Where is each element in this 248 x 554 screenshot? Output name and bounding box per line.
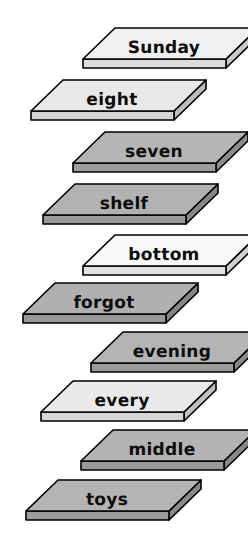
shelf-top-face <box>26 480 201 511</box>
shelf-top-face <box>83 235 248 266</box>
shelf-front-face <box>83 266 226 275</box>
shelf-plank[interactable]: eight <box>29 78 189 130</box>
shelf-shape-icon <box>89 330 248 382</box>
shelf-plank[interactable]: every <box>39 379 199 431</box>
shelf-shape-icon <box>21 281 181 333</box>
shelf-plank[interactable]: forgot <box>21 281 181 333</box>
shelf-front-face <box>41 412 184 421</box>
shelf-top-face <box>41 381 216 412</box>
shelf-top-face <box>91 332 248 363</box>
shelf-front-face <box>23 314 166 323</box>
shelf-plank[interactable]: middle <box>79 428 239 480</box>
shelf-front-face <box>73 163 216 172</box>
shelf-plank[interactable]: bottom <box>81 233 241 285</box>
shelf-top-face <box>83 28 248 59</box>
shelf-front-face <box>91 363 234 372</box>
shelf-top-face <box>23 283 198 314</box>
shelf-plank[interactable]: toys <box>24 478 184 530</box>
shelf-top-face <box>73 132 248 163</box>
shelf-plank[interactable]: Sunday <box>81 26 241 78</box>
shelf-shape-icon <box>29 78 189 130</box>
shelf-front-face <box>31 111 174 120</box>
shelf-front-face <box>43 215 186 224</box>
shelf-shape-icon <box>39 379 199 431</box>
shelf-stack: Sundayeightsevenshelfbottomforgotevening… <box>0 0 248 554</box>
shelf-shape-icon <box>41 182 201 234</box>
shelf-top-face <box>43 184 218 215</box>
shelf-shape-icon <box>81 233 241 285</box>
shelf-plank[interactable]: evening <box>89 330 248 382</box>
shelf-shape-icon <box>71 130 231 182</box>
shelf-shape-icon <box>24 478 184 530</box>
shelf-shape-icon <box>81 26 241 78</box>
shelf-plank[interactable]: seven <box>71 130 231 182</box>
shelf-plank[interactable]: shelf <box>41 182 201 234</box>
shelf-top-face <box>81 430 248 461</box>
shelf-front-face <box>83 59 226 68</box>
shelf-top-face <box>31 80 206 111</box>
shelf-front-face <box>81 461 224 470</box>
shelf-shape-icon <box>79 428 239 480</box>
shelf-front-face <box>26 511 169 520</box>
